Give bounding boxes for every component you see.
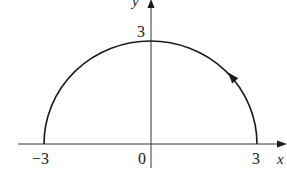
y-axis-label: y	[130, 0, 139, 9]
origin-label: 0	[138, 150, 146, 167]
x-axis-label: x	[276, 151, 284, 167]
x-axis-arrow-icon	[277, 141, 287, 148]
x-tick-label-neg3: −3	[32, 150, 49, 167]
x-tick-label-3: 3	[252, 150, 260, 167]
y-tick-label-3: 3	[137, 23, 145, 40]
semicircle-diagram: y x 3 −3 0 3	[0, 0, 287, 175]
y-axis-arrow-icon	[148, 0, 155, 8]
